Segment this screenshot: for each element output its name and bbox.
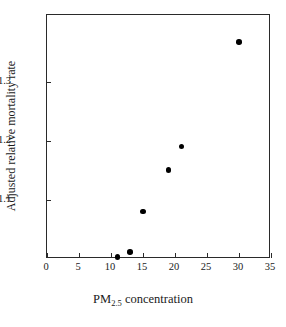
y-axis-tick-label: 1.3 [0, 75, 11, 87]
x-axis-tick-label: 35 [255, 261, 285, 273]
x-axis-tick [79, 253, 80, 258]
x-axis-tick-label: 5 [63, 261, 93, 273]
x-axis-title-main: PM [93, 292, 111, 306]
x-axis-tick-label: 30 [223, 261, 253, 273]
x-axis-tick-label: 0 [31, 261, 61, 273]
x-axis-tick [175, 253, 176, 258]
data-point [166, 167, 172, 173]
x-axis-tick [143, 253, 144, 258]
x-axis-tick-label: 25 [191, 261, 221, 273]
x-axis-tick-label: 20 [159, 261, 189, 273]
y-axis-tick [46, 200, 51, 201]
x-axis-tick [271, 253, 272, 258]
data-point [179, 144, 185, 150]
y-axis-tick [46, 141, 51, 142]
x-axis-tick [111, 253, 112, 258]
plot-frame [46, 14, 270, 258]
data-point [127, 249, 133, 255]
x-axis-title-rest: concentration [122, 292, 193, 306]
x-axis-tick [47, 253, 48, 258]
data-point [236, 39, 242, 45]
data-point [140, 209, 146, 215]
y-axis-tick [46, 82, 51, 83]
x-axis-title: PM2.5 concentration [0, 292, 286, 307]
plot-area [47, 15, 269, 257]
x-axis-tick-label: 10 [95, 261, 125, 273]
x-axis-tick-label: 15 [127, 261, 157, 273]
x-axis-tick [239, 253, 240, 258]
data-point [115, 254, 121, 260]
x-axis-tick [207, 253, 208, 258]
scatter-plot-figure: Adjusted relative mortality rate 0510152… [0, 0, 286, 327]
y-axis-tick-label: 1.1 [0, 193, 11, 205]
x-axis-title-subscript: 2.5 [111, 298, 122, 308]
y-axis-tick-label: 1.2 [0, 134, 11, 146]
